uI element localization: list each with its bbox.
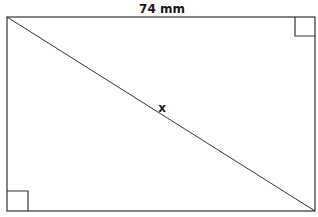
diagram-canvas: 74 mm x xyxy=(0,0,318,217)
diagonal-label: x xyxy=(158,101,166,115)
right-angle-marker-top-right xyxy=(295,17,315,36)
right-angle-marker-bottom-left xyxy=(7,191,28,211)
top-side-label: 74 mm xyxy=(139,2,185,16)
